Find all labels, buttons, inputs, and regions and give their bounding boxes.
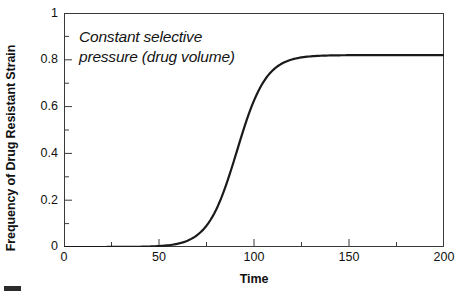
- chart-annotation: Constant selective pressure (drug volume…: [79, 27, 235, 68]
- data-series-line: [64, 55, 444, 247]
- chart-figure: Frequency of Drug Resistant Strain: [0, 0, 468, 296]
- x-tick-label-50: 50: [139, 250, 179, 264]
- x-tick-label-0: 0: [44, 250, 84, 264]
- y-tick-label-0.8: 0.8: [24, 52, 58, 66]
- y-tick-label-1: 1: [24, 6, 58, 20]
- x-axis-title: Time: [64, 272, 444, 286]
- scan-artifact-mark: [4, 286, 21, 291]
- y-tick-label-0.4: 0.4: [24, 146, 58, 160]
- y-tick-label-0.2: 0.2: [24, 193, 58, 207]
- x-tick-label-100: 100: [234, 250, 274, 264]
- y-tick-label-0.6: 0.6: [24, 99, 58, 113]
- y-axis-minor-ticks: [64, 36, 69, 223]
- y-axis-title: Frequency of Drug Resistant Strain: [0, 0, 22, 296]
- x-tick-label-150: 150: [329, 250, 369, 264]
- x-axis-major-ticks: [65, 239, 444, 247]
- x-tick-label-200: 200: [424, 250, 464, 264]
